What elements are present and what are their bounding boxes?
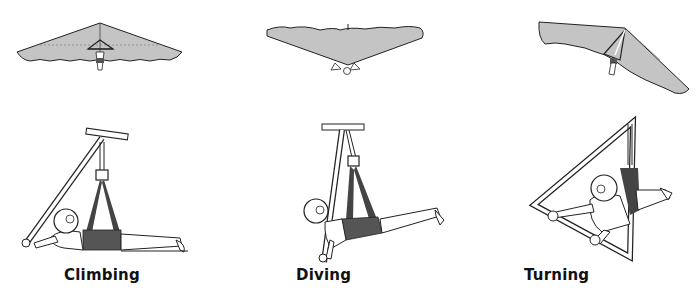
panel-climbing: Climbing <box>0 0 230 300</box>
pilot-climbing-icon <box>22 128 188 252</box>
pilot-diving-icon <box>304 124 444 262</box>
glider-sail-icon <box>267 24 423 75</box>
caption-climbing: Climbing <box>64 266 140 284</box>
glider-diving-illustration <box>230 0 470 300</box>
panel-diving: Diving <box>230 0 470 300</box>
glider-turning-illustration <box>470 0 697 300</box>
caption-diving: Diving <box>296 266 351 284</box>
panel-turning: Turning <box>470 0 697 300</box>
glider-climbing-illustration <box>0 0 230 300</box>
caption-turning: Turning <box>524 266 589 284</box>
pilot-turning-icon <box>534 122 672 257</box>
glider-sail-icon <box>17 23 182 70</box>
glider-sail-icon <box>539 22 689 94</box>
